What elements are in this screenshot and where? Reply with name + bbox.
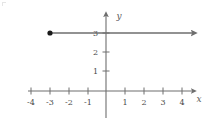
x-tick-label-1: 1 (122, 98, 127, 107)
x-tick-label--3: -3 (46, 98, 54, 107)
y-axis-label: y (115, 11, 122, 21)
graph-figure: -4 -3 -2 -1 1 2 3 4 x 1 2 3 y (0, 0, 207, 120)
x-tick-label--4: -4 (27, 98, 35, 107)
y-tick-label-1: 1 (93, 67, 98, 76)
coordinate-plane: -4 -3 -2 -1 1 2 3 4 x 1 2 3 y (0, 0, 207, 120)
function-ray-y-equals-3 (47, 30, 192, 35)
x-tick-label--2: -2 (65, 98, 73, 107)
x-tick-label-4: 4 (179, 98, 184, 107)
x-axis-label: x (196, 94, 201, 104)
y-tick-label-2: 2 (93, 48, 98, 57)
closed-endpoint-dot (47, 30, 52, 35)
x-tick-label-3: 3 (160, 98, 165, 107)
x-tick-label-2: 2 (141, 98, 146, 107)
x-tick-label--1: -1 (84, 98, 92, 107)
x-axis: -4 -3 -2 -1 1 2 3 4 x (27, 88, 201, 108)
y-axis: 1 2 3 y (93, 11, 123, 118)
